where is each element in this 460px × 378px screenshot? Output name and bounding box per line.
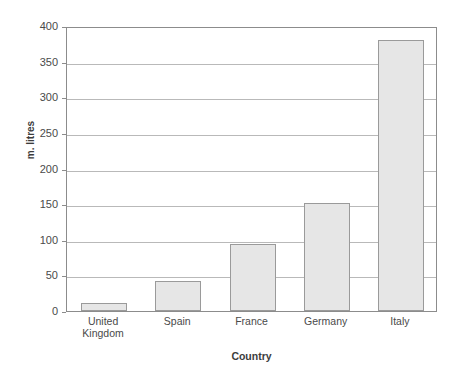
plot-area [66, 27, 437, 312]
y-axis-tick-label: 150 [8, 199, 58, 210]
x-axis-category-labels: UnitedKingdomSpainFranceGermanyItaly [66, 315, 437, 355]
y-axis-tick-mark [62, 312, 66, 313]
bar-united-kingdom [81, 303, 127, 311]
bar-spain [155, 281, 201, 311]
x-axis-label-line: Italy [363, 315, 437, 327]
x-axis-label-line: Germany [289, 315, 363, 327]
bar-italy [378, 40, 424, 311]
y-axis-tick-label: 250 [8, 128, 58, 139]
x-axis-label-line: France [214, 315, 288, 327]
y-axis-tick-label: 300 [8, 92, 58, 103]
bar-germany [304, 203, 350, 311]
y-axis-tick-label: 50 [8, 270, 58, 281]
x-axis-title: Country [66, 350, 437, 362]
bar-chart: m. litres 050100150200250300350400 Unite… [0, 0, 460, 378]
x-axis-label-line: United [66, 315, 140, 327]
x-axis-label-spain: Spain [140, 315, 214, 327]
x-axis-label-line: Spain [140, 315, 214, 327]
y-axis-tick-label: 400 [8, 21, 58, 32]
x-axis-label-germany: Germany [289, 315, 363, 327]
x-axis-label-line: Kingdom [66, 327, 140, 339]
y-axis-tick-label: 0 [8, 306, 58, 317]
y-axis-tick-label: 200 [8, 164, 58, 175]
x-axis-label-italy: Italy [363, 315, 437, 327]
bars-layer [67, 28, 436, 311]
y-axis-tick-labels: 050100150200250300350400 [0, 0, 66, 378]
x-axis-label-united-kingdom: UnitedKingdom [66, 315, 140, 339]
y-axis-tick-label: 350 [8, 57, 58, 68]
bar-france [230, 244, 276, 311]
y-axis-tick-label: 100 [8, 235, 58, 246]
x-axis-label-france: France [214, 315, 288, 327]
